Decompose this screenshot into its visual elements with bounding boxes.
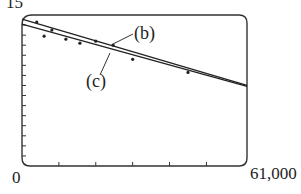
data-point	[35, 20, 38, 23]
data-point	[43, 35, 46, 38]
data-point	[78, 42, 81, 45]
annotation-b: (b)	[134, 24, 155, 42]
y-max-label: 15	[6, 0, 23, 11]
data-point	[50, 29, 53, 32]
data-point	[131, 58, 134, 61]
data-point	[94, 40, 97, 43]
data-points	[35, 20, 189, 74]
annotation-c: (c)	[86, 72, 106, 90]
leader-b	[113, 34, 133, 44]
data-point	[64, 38, 67, 41]
x-max-label: 61,000	[250, 165, 297, 182]
data-point	[186, 71, 189, 74]
x-min-label: 0	[12, 169, 21, 186]
